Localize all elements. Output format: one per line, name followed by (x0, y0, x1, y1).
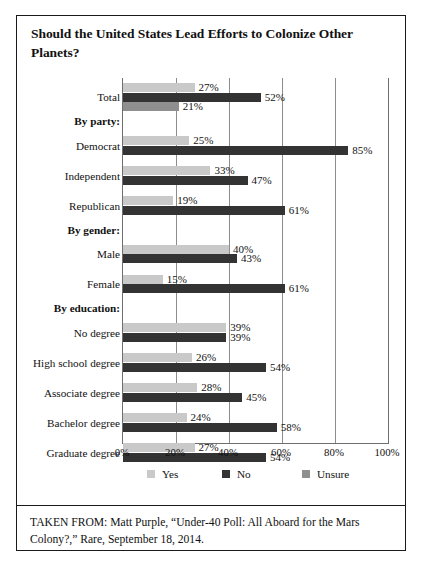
bar-republican-no (123, 206, 285, 215)
category-label-democrat: Democrat (17, 140, 120, 152)
category-label-no-degree: No degree (17, 327, 120, 339)
category-label-associate-degree: Associate degree (17, 387, 120, 399)
gridline (282, 78, 283, 443)
legend-label: Yes (162, 468, 178, 480)
page-title: Should the United States Lead Efforts to… (31, 24, 381, 62)
category-label-independent: Independent (17, 170, 120, 182)
x-tick-label: 80% (324, 446, 344, 458)
bar-value-label: 43% (241, 253, 261, 264)
bar-independent-no (123, 176, 248, 185)
bar-male-yes (123, 245, 229, 254)
bar-value-label: 28% (201, 382, 221, 393)
bar-female-no (123, 284, 285, 293)
plot-region: 27%52%21%25%85%33%47%19%61%40%43%15%61%3… (122, 78, 389, 444)
bar-value-label: 85% (352, 145, 372, 156)
bar-female-yes (123, 275, 163, 284)
legend-item-no: No (222, 468, 251, 480)
bar-no-degree-yes (123, 323, 226, 332)
category-label-bachelor-degree: Bachelor degree (17, 417, 120, 429)
bar-value-label: 25% (193, 135, 213, 146)
x-tick-label: 20% (165, 446, 185, 458)
bar-value-label: 45% (246, 392, 266, 403)
x-tick-label: 0% (115, 446, 129, 458)
bar-bachelor-degree-yes (123, 413, 187, 422)
bar-value-label: 54% (270, 362, 290, 373)
bar-value-label: 26% (196, 352, 216, 363)
bar-democrat-yes (123, 136, 189, 145)
bar-republican-yes (123, 196, 173, 205)
bar-high-school-degree-no (123, 363, 266, 372)
x-tick-label: 60% (271, 446, 291, 458)
category-label-republican: Republican (17, 200, 120, 212)
bar-high-school-degree-yes (123, 353, 192, 362)
legend-swatch-yes (147, 470, 155, 478)
bar-value-label: 24% (191, 412, 211, 423)
x-tick-label: 100% (374, 446, 399, 458)
bar-chart: TotalBy party:DemocratIndependentRepubli… (17, 78, 405, 468)
bar-value-label: 33% (214, 165, 234, 176)
group-header-by-gender: By gender: (17, 224, 120, 236)
bar-value-label: 58% (281, 422, 301, 433)
legend-swatch-no (222, 470, 230, 478)
figure-frame: Should the United States Lead Efforts to… (16, 15, 406, 551)
bar-value-label: 39% (230, 332, 250, 343)
group-header-by-party: By party: (17, 115, 120, 127)
bar-value-label: 61% (289, 205, 309, 216)
bar-value-label: 47% (252, 175, 272, 186)
bar-total-unsure (123, 102, 179, 111)
x-axis-tick-labels: 0%20%40%60%80%100% (122, 446, 389, 464)
legend-label: Unsure (317, 468, 349, 480)
bar-no-degree-no (123, 333, 226, 342)
bar-value-label: 21% (183, 101, 203, 112)
category-label-high-school-degree: High school degree (17, 357, 120, 369)
category-label-column: TotalBy party:DemocratIndependentRepubli… (17, 78, 120, 443)
bar-value-label: 61% (289, 283, 309, 294)
legend-swatch-unsure (302, 470, 310, 478)
bar-value-label: 15% (167, 274, 187, 285)
bar-total-yes (123, 83, 195, 92)
bar-independent-yes (123, 166, 210, 175)
bar-associate-degree-no (123, 393, 242, 402)
bar-value-label: 19% (177, 195, 197, 206)
bar-bachelor-degree-no (123, 423, 277, 432)
x-tick-label: 40% (218, 446, 238, 458)
bar-democrat-no (123, 146, 348, 155)
bar-associate-degree-yes (123, 383, 197, 392)
legend-label: No (237, 468, 251, 480)
category-label-total: Total (17, 91, 120, 103)
bar-male-no (123, 254, 237, 263)
category-label-male: Male (17, 248, 120, 260)
group-header-by-education: By education: (17, 302, 120, 314)
legend-item-yes: Yes (147, 468, 178, 480)
category-label-graduate-degree: Graduate degree (17, 447, 120, 459)
gridline (335, 78, 336, 443)
source-note: TAKEN FROM: Matt Purple, “Under-40 Poll:… (30, 515, 392, 549)
bar-value-label: 27% (199, 82, 219, 93)
category-label-female: Female (17, 278, 120, 290)
legend-item-unsure: Unsure (302, 468, 349, 480)
bar-value-label: 52% (265, 92, 285, 103)
source-divider (17, 505, 405, 506)
chart-legend: YesNoUnsure (17, 468, 405, 490)
